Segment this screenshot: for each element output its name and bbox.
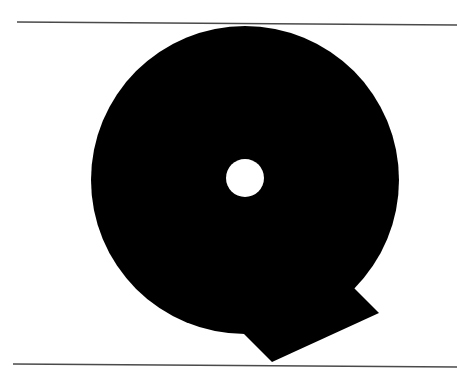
letter-q-figure: [0, 0, 457, 378]
bottom-rule: [13, 364, 457, 367]
q-center-hole: [226, 159, 264, 197]
top-rule: [17, 22, 457, 25]
q-glyph: [91, 26, 399, 362]
